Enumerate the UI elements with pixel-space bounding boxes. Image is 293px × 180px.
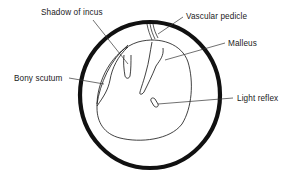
- leader-line-vascular-pedicle: [158, 17, 183, 34]
- otoscope-speculum-ring: [80, 22, 220, 168]
- label-shadow-of-incus: Shadow of incus: [41, 9, 103, 17]
- label-malleus: Malleus: [228, 40, 257, 48]
- label-bony-scutum: Bony scutum: [14, 75, 62, 83]
- tympanic-membrane-diagram: [0, 0, 293, 180]
- malleus-shape: [140, 42, 163, 94]
- vascular-pedicle-shape: [147, 24, 158, 40]
- shadow-of-incus-shape: [124, 55, 131, 78]
- label-light-reflex: Light reflex: [237, 95, 278, 103]
- leader-line-bony-scutum: [69, 78, 104, 84]
- bony-scutum-shape: [97, 45, 128, 106]
- label-vascular-pedicle: Vascular pedicle: [186, 13, 247, 21]
- light-reflex-shape: [151, 98, 158, 107]
- tympanic-membrane-outline: [97, 40, 191, 140]
